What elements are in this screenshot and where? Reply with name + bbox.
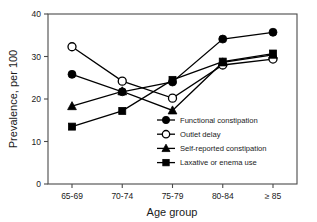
y-tick-label: 20 bbox=[32, 94, 42, 104]
series-outlet-delay bbox=[72, 47, 273, 98]
x-axis-tick-labels: 65-6970-7475-7980-84≥ 85 bbox=[61, 191, 281, 201]
legend-item: Outlet delay bbox=[157, 130, 221, 139]
chart-legend: Functional constipationOutlet delaySelf-… bbox=[157, 116, 267, 168]
legend-open-circle-icon bbox=[162, 131, 169, 138]
legend-filled-square-icon bbox=[163, 159, 169, 165]
x-tick-label: 80-84 bbox=[212, 191, 234, 201]
x-tick-label: 65-69 bbox=[61, 191, 83, 201]
y-axis-title: Prevalence, per 100 bbox=[7, 50, 19, 148]
legend-item: Laxative or enema use bbox=[157, 158, 257, 167]
open-circle-data-point bbox=[118, 77, 126, 85]
x-axis-title: Age group bbox=[147, 206, 198, 218]
y-axis-ticks bbox=[44, 14, 48, 184]
series-line bbox=[72, 47, 273, 98]
filled-circle-data-point bbox=[269, 28, 277, 36]
legend-item-label: Laxative or enema use bbox=[180, 158, 257, 167]
legend-item: Functional constipation bbox=[157, 116, 258, 125]
legend-item-label: Outlet delay bbox=[180, 130, 221, 139]
legend-item: Self-reported constipation bbox=[157, 144, 267, 153]
prevalence-by-age-group-line-chart: 010203040 65-6970-7475-7980-84≥ 85 Funct… bbox=[0, 0, 317, 222]
filled-circle-data-point bbox=[219, 35, 227, 43]
filled-circle-data-point bbox=[68, 70, 76, 78]
x-tick-label: ≥ 85 bbox=[265, 191, 282, 201]
open-circle-data-point bbox=[169, 94, 177, 102]
y-tick-label: 30 bbox=[32, 52, 42, 62]
filled-square-data-point bbox=[169, 76, 176, 83]
y-tick-label: 0 bbox=[36, 179, 41, 189]
chart-figure: 010203040 65-6970-7475-7980-84≥ 85 Funct… bbox=[0, 0, 317, 222]
legend-filled-circle-icon bbox=[162, 116, 169, 123]
y-axis-tick-labels: 010203040 bbox=[32, 9, 42, 189]
filled-square-data-point bbox=[270, 50, 277, 57]
filled-square-data-point bbox=[119, 107, 126, 114]
filled-square-data-point bbox=[69, 123, 76, 130]
legend-item-label: Functional constipation bbox=[180, 116, 258, 125]
filled-square-data-point bbox=[219, 58, 226, 65]
x-tick-label: 75-79 bbox=[162, 191, 184, 201]
open-circle-data-point bbox=[68, 43, 76, 51]
x-tick-label: 70-74 bbox=[111, 191, 133, 201]
y-tick-label: 10 bbox=[32, 137, 42, 147]
y-tick-label: 40 bbox=[32, 9, 42, 19]
x-axis-ticks bbox=[72, 184, 273, 188]
markers-outlet-delay bbox=[68, 43, 277, 102]
legend-item-label: Self-reported constipation bbox=[180, 144, 267, 153]
